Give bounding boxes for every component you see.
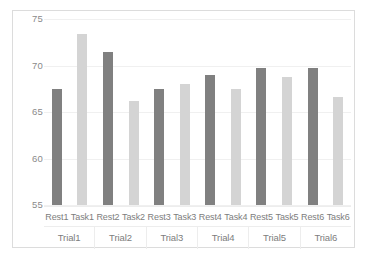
bar-task3 xyxy=(180,84,190,205)
chart-plot-wrapper: 7570656055 Rest1Task1Rest2Task2Rest3Task… xyxy=(13,11,356,249)
category-label-rest1: Rest1 xyxy=(44,207,70,227)
group-label-trial2: Trial2 xyxy=(94,227,145,249)
y-axis-tick-55: 55 xyxy=(17,200,43,210)
bar-rest6 xyxy=(308,68,318,205)
category-label-task4: Task4 xyxy=(223,207,249,227)
y-axis-tick-60: 60 xyxy=(17,154,43,164)
y-axis-tick-75: 75 xyxy=(17,14,43,24)
bar-rest1 xyxy=(52,89,62,205)
bar-rest5 xyxy=(256,68,266,205)
bar-rest4 xyxy=(205,75,215,205)
y-axis: 7570656055 xyxy=(17,11,43,249)
bar-task6 xyxy=(333,97,343,205)
bar-series xyxy=(44,19,351,205)
category-label-rest3: Rest3 xyxy=(146,207,172,227)
category-label-row: Rest1Task1Rest2Task2Rest3Task3Rest4Task4… xyxy=(44,207,351,227)
plot-area xyxy=(44,19,351,205)
chart-screenshot: 7570656055 Rest1Task1Rest2Task2Rest3Task… xyxy=(0,0,371,266)
bar-task4 xyxy=(231,89,241,205)
bar-task5 xyxy=(282,77,292,205)
category-label-task6: Task6 xyxy=(325,207,351,227)
group-label-trial5: Trial5 xyxy=(248,227,299,249)
y-axis-tick-65: 65 xyxy=(17,107,43,117)
category-label-rest4: Rest4 xyxy=(197,207,223,227)
category-label-task1: Task1 xyxy=(70,207,96,227)
category-label-rest6: Rest6 xyxy=(300,207,326,227)
bar-rest3 xyxy=(154,89,164,205)
category-label-task2: Task2 xyxy=(121,207,147,227)
bar-task1 xyxy=(77,34,87,205)
group-label-trial4: Trial4 xyxy=(197,227,248,249)
group-label-trial3: Trial3 xyxy=(146,227,197,249)
category-label-rest2: Rest2 xyxy=(95,207,121,227)
group-label-trial6: Trial6 xyxy=(300,227,351,249)
category-label-task3: Task3 xyxy=(172,207,198,227)
bar-rest2 xyxy=(103,52,113,205)
chart-frame: 7570656055 Rest1Task1Rest2Task2Rest3Task… xyxy=(12,10,355,248)
y-axis-tick-70: 70 xyxy=(17,61,43,71)
group-label-row: Trial1Trial2Trial3Trial4Trial5Trial6 xyxy=(44,227,351,249)
category-label-task5: Task5 xyxy=(274,207,300,227)
group-label-trial1: Trial1 xyxy=(44,227,94,249)
bar-task2 xyxy=(129,101,139,205)
category-label-rest5: Rest5 xyxy=(249,207,275,227)
